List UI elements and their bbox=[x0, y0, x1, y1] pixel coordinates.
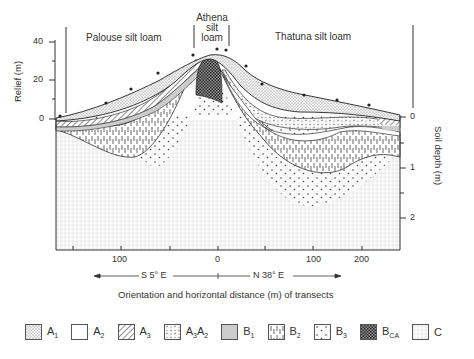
legend-item-b3: B3 bbox=[314, 324, 347, 340]
legend-label-base: B bbox=[243, 325, 250, 337]
swatch-dashes-icon bbox=[164, 324, 181, 340]
x-axis-title: Orientation and horizontal distance (m) … bbox=[118, 289, 333, 300]
legend-label-sub: 2 bbox=[101, 332, 105, 339]
relief-axis-label: Relief (m) bbox=[12, 57, 23, 107]
swatch-blank-icon bbox=[71, 324, 88, 340]
legend-item-a2: A2 bbox=[71, 324, 104, 340]
x-tick-right-100: 100 bbox=[306, 254, 321, 264]
swatch-light-gray-icon bbox=[221, 324, 238, 340]
legend-item-b2: B2 bbox=[268, 324, 301, 340]
legend-label-sub: 3 bbox=[343, 332, 347, 339]
swatch-sparse-dots-icon bbox=[314, 324, 331, 340]
x-tick-left-100: 100 bbox=[112, 254, 127, 264]
legend-label-sub: 2 bbox=[297, 332, 301, 339]
depth-tick-0: 0 bbox=[410, 111, 415, 121]
soil-cross-section-diagram bbox=[0, 0, 474, 359]
legend-item-a3a2: A3A2 bbox=[164, 324, 209, 340]
soil-depth-axis-label: Soil depth (m) bbox=[433, 121, 444, 191]
legend-label-sub: 1 bbox=[54, 332, 58, 339]
orientation-arrows bbox=[94, 273, 341, 279]
swatch-diagonal-hatch-icon bbox=[118, 324, 135, 340]
legend-label-base: C bbox=[434, 326, 442, 338]
soil-series-thatuna: Thatuna silt loam bbox=[275, 31, 351, 42]
orientation-right-label: N 38° E bbox=[253, 270, 284, 280]
relief-tick-0: 0 bbox=[39, 113, 44, 123]
relief-tick-40: 40 bbox=[33, 36, 43, 46]
legend-label-base: A bbox=[93, 325, 100, 337]
legend-label-base: A bbox=[140, 325, 147, 337]
depth-tick-2: 2 bbox=[410, 212, 415, 222]
depth-tick-1: 1 bbox=[410, 162, 415, 172]
legend-item-a1: A1 bbox=[25, 324, 58, 340]
legend-item-a3: A3 bbox=[118, 324, 151, 340]
swatch-grid-dots-icon bbox=[412, 324, 429, 340]
legend-item-b1: B1 bbox=[221, 324, 254, 340]
legend-label-base: B bbox=[290, 325, 297, 337]
swatch-fine-dots-icon bbox=[25, 324, 42, 340]
legend-item-bca: BCA bbox=[360, 324, 399, 340]
relief-tick-20: 20 bbox=[33, 74, 43, 84]
legend-label-sub: CA bbox=[389, 332, 399, 339]
swatch-vertical-dashes-icon bbox=[268, 324, 285, 340]
legend-label-sub2: 2 bbox=[204, 332, 208, 339]
orientation-left-label: S 5° E bbox=[141, 270, 167, 280]
athena-line-3: loam bbox=[195, 33, 229, 43]
legend-label-sub: 1 bbox=[251, 332, 255, 339]
legend-label-sub: 3 bbox=[147, 332, 151, 339]
x-tick-right-200: 200 bbox=[354, 254, 369, 264]
soil-series-athena: Athena silt loam bbox=[195, 13, 229, 43]
legend-label-base: A bbox=[186, 325, 193, 337]
x-tick-0: 0 bbox=[215, 254, 220, 264]
legend: A1 A2 A3 A3A2 B1 B2 B3 BCA C bbox=[25, 324, 455, 340]
legend-item-c: C bbox=[412, 324, 442, 340]
swatch-dense-crosshatch-icon bbox=[360, 324, 377, 340]
legend-label-base: B bbox=[336, 325, 343, 337]
soil-series-palouse: Palouse silt loam bbox=[86, 32, 162, 43]
